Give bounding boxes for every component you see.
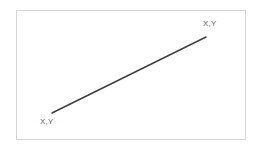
endpoint-label-end: X,Y [203, 19, 217, 28]
diagram-canvas: X,Y X,Y [0, 0, 263, 152]
endpoint-label-start: X,Y [40, 117, 54, 126]
